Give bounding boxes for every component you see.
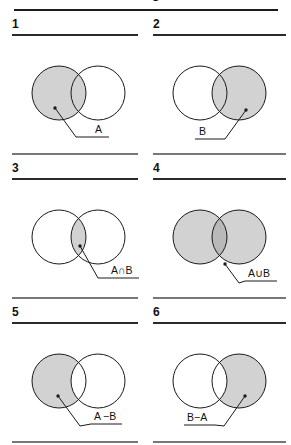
set-expression-label: A∩B [111, 264, 133, 276]
panel-header-rule [12, 178, 138, 180]
venn-panel-5: 5A −B [12, 306, 150, 445]
set-expression-label: A −B [94, 410, 116, 422]
panel-number: 4 [153, 162, 160, 174]
leader-dot [244, 108, 247, 111]
figure-top-rule [14, 9, 278, 11]
figure-caption-strip: Venn diagrams [0, 0, 291, 9]
leader-dot [78, 244, 81, 247]
panel-number: 3 [12, 162, 19, 174]
venn-diagram-figure: Venn diagrams 1A2B3A∩B4A∪B5A −B6B−A [0, 0, 291, 445]
leader-dot [56, 394, 59, 397]
venn-drawing: A∪B [153, 182, 291, 298]
venn-drawing: A∩B [12, 182, 150, 298]
panel-header-rule [12, 322, 138, 324]
set-expression-label: B−A [187, 411, 207, 423]
venn-panel-6: 6B−A [153, 306, 291, 445]
panel-number: 2 [153, 18, 160, 30]
panel-header-rule [153, 322, 286, 324]
leader-line [225, 264, 245, 283]
leader-dot [53, 106, 56, 109]
panel-grid: 1A2B3A∩B4A∪B5A −B6B−A [0, 14, 291, 445]
set-expression-label: A∪B [248, 267, 270, 279]
venn-panel-4: 4A∪B [153, 162, 291, 302]
panel-number: 1 [12, 18, 19, 30]
venn-drawing: A [12, 38, 150, 154]
set-expression-label: B [199, 125, 206, 137]
venn-panel-1: 1A [12, 18, 150, 158]
venn-drawing: B [153, 38, 291, 154]
set-expression-label: A [95, 123, 102, 135]
venn-drawing: B−A [153, 326, 291, 442]
leader-dot [243, 394, 246, 397]
leader-line [80, 246, 108, 278]
panel-number: 5 [12, 306, 19, 318]
panel-header-rule [153, 178, 286, 180]
panel-header-rule [153, 34, 286, 36]
figure-caption: Venn diagrams [0, 0, 291, 1]
leader-dot [223, 262, 226, 265]
venn-drawing: A −B [12, 326, 150, 442]
venn-panel-3: 3A∩B [12, 162, 150, 302]
panel-number: 6 [153, 306, 160, 318]
panel-header-rule [12, 34, 138, 36]
venn-panel-2: 2B [153, 18, 291, 158]
